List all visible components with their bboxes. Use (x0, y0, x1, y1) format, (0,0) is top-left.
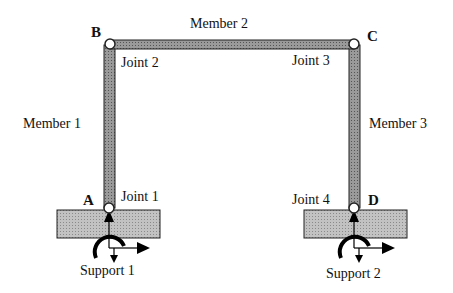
joint-3-label: Joint 3 (292, 54, 330, 68)
joint-c-circle (349, 39, 359, 49)
member-2-beam (110, 40, 354, 49)
member-1-column (104, 45, 115, 208)
portal-frame-diagram: B C A D Joint 2 Joint 3 Joint 1 Joint 4 … (0, 0, 453, 293)
member-3-column (349, 45, 360, 208)
node-d-label: D (368, 193, 379, 208)
node-a-label: A (83, 193, 94, 208)
support-2-label: Support 2 (326, 267, 381, 281)
member-2-label: Member 2 (190, 17, 248, 31)
node-c-label: C (367, 29, 378, 44)
member-1-label: Member 1 (23, 117, 81, 131)
support-1-label: Support 1 (80, 264, 135, 278)
joint-2-label: Joint 2 (121, 56, 159, 70)
joint-1-label: Joint 1 (121, 190, 159, 204)
joint-d-circle (349, 203, 359, 213)
joint-b-circle (105, 39, 115, 49)
node-b-label: B (91, 25, 101, 40)
joint-a-circle (104, 203, 114, 213)
member-3-label: Member 3 (369, 117, 427, 131)
joint-4-label: Joint 4 (292, 193, 330, 207)
